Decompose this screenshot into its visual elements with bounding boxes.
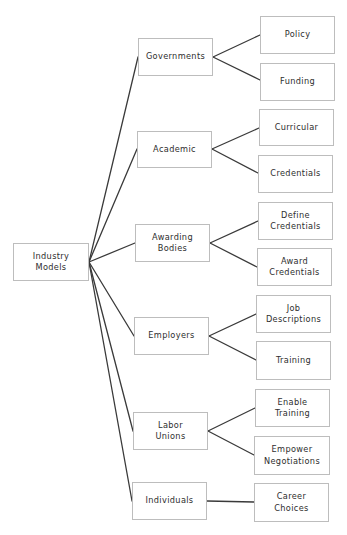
- node-award-credentials: Award Credentials: [257, 248, 332, 286]
- edge-labor-enable: [208, 408, 255, 431]
- edge-root-governments: [89, 57, 138, 262]
- node-funding: Funding: [260, 63, 335, 101]
- node-career-choices: Career Choices: [254, 483, 329, 522]
- node-academic: Academic: [137, 131, 212, 168]
- edge-governments-policy: [213, 35, 260, 57]
- edge-academic-credentials: [212, 149, 258, 173]
- edge-employers-training: [209, 336, 256, 360]
- node-training: Training: [256, 341, 331, 380]
- node-awarding-bodies: Awarding Bodies: [135, 224, 210, 262]
- edge-employers-job: [209, 314, 256, 336]
- node-define-credentials: Define Credentials: [258, 202, 333, 240]
- node-empower-negotiations: Empower Negotiations: [254, 436, 330, 475]
- node-credentials: Credentials: [258, 155, 333, 193]
- tree-diagram: Industry Models Governments Academic Awa…: [0, 0, 347, 535]
- node-enable-training: Enable Training: [255, 389, 330, 427]
- node-job-descriptions: Job Descriptions: [256, 295, 331, 333]
- edge-academic-curricular: [212, 128, 259, 149]
- node-labor-unions: Labor Unions: [133, 412, 208, 450]
- node-policy: Policy: [260, 16, 335, 54]
- node-individuals: Individuals: [132, 482, 207, 520]
- edge-root-labor-unions: [89, 262, 133, 431]
- edge-governments-funding: [213, 57, 260, 80]
- edge-awarding-define: [210, 221, 258, 243]
- edge-labor-empower: [208, 431, 254, 455]
- node-governments: Governments: [138, 38, 213, 76]
- node-employers: Employers: [134, 317, 209, 355]
- node-industry-models: Industry Models: [13, 243, 89, 281]
- edge-awarding-award: [210, 243, 257, 267]
- node-curricular: Curricular: [259, 109, 334, 146]
- edge-individuals-career: [207, 501, 254, 502]
